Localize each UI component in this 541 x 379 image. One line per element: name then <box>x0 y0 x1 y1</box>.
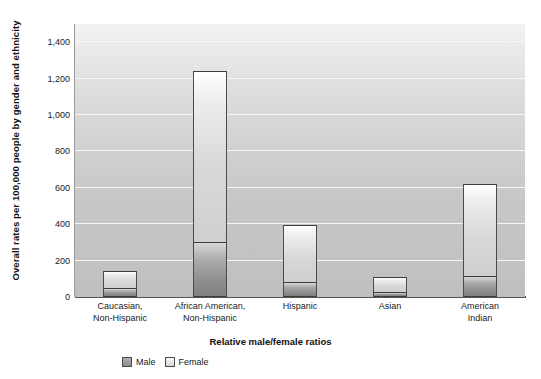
bar-segment-male <box>103 288 137 297</box>
x-tick-label: AmericanIndian <box>461 301 499 324</box>
x-tick-label: African American,Non-Hispanic <box>175 301 246 324</box>
bar-segment-male <box>373 292 407 297</box>
gridline <box>75 223 525 224</box>
bar-segment-female <box>283 225 317 281</box>
legend-label-female: Female <box>179 357 209 367</box>
y-tick-label: 600 <box>24 183 70 193</box>
x-tick-label: Hispanic <box>283 301 318 313</box>
plot-area <box>75 24 525 297</box>
bar-segment-male <box>283 282 317 297</box>
y-tick-label: 1,200 <box>24 74 70 84</box>
y-axis-title: Overall rates per 100,000 people by gend… <box>6 0 24 300</box>
y-tick-label: 200 <box>24 256 70 266</box>
y-tick-label: 1,000 <box>24 110 70 120</box>
gridline <box>75 187 525 188</box>
x-axis-title: Relative male/female ratios <box>0 336 541 347</box>
y-tick-label: 1,400 <box>24 37 70 47</box>
bar-segment-female <box>463 184 497 276</box>
y-axis-title-text: Overall rates per 100,000 people by gend… <box>10 20 21 280</box>
x-tick-label: Asian <box>379 301 402 313</box>
y-tick-label: 400 <box>24 219 70 229</box>
gridline <box>75 41 525 42</box>
y-axis-tick-labels: 02004006008001,0001,2001,400 <box>24 0 70 379</box>
legend-item-male: Male <box>122 357 156 367</box>
x-tick-label: Caucasian,Non-Hispanic <box>93 301 147 324</box>
gridline <box>75 78 525 79</box>
legend-swatch-male-icon <box>122 357 132 367</box>
bar-segment-male <box>193 242 227 297</box>
x-axis-category-labels: Caucasian,Non-HispanicAfrican American,N… <box>75 301 525 329</box>
legend-swatch-female-icon <box>165 357 175 367</box>
bar-segment-female <box>373 277 407 292</box>
gridline <box>75 114 525 115</box>
y-tick-label: 0 <box>24 292 70 302</box>
chart-container: Overall rates per 100,000 people by gend… <box>0 0 541 379</box>
bar-segment-male <box>463 276 497 297</box>
bar-segment-female <box>103 271 137 288</box>
bar-segment-female <box>193 71 227 242</box>
legend-label-male: Male <box>136 357 156 367</box>
chart-legend: Male Female <box>75 357 209 367</box>
y-tick-label: 800 <box>24 146 70 156</box>
gridline <box>75 150 525 151</box>
legend-item-female: Female <box>165 357 209 367</box>
